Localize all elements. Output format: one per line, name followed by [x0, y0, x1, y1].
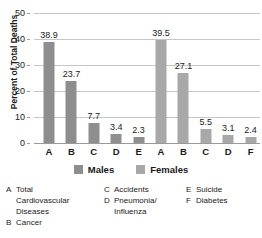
bar [133, 137, 144, 143]
key-entry-text-continuation: Influenza [114, 206, 157, 217]
key-entry-letter: E [186, 184, 192, 195]
x-axis-tick-label: B [180, 146, 187, 157]
y-axis-tick-mark [27, 65, 30, 66]
key-column-2: CAccidentsDPneumonia/Influenza [104, 184, 186, 228]
y-axis-tick-label: 20 [15, 86, 30, 96]
y-axis-tick-mark [27, 39, 30, 40]
bar [245, 137, 256, 143]
bar-value-label: 3.1 [222, 123, 235, 133]
bar-value-label: 5.5 [200, 117, 213, 127]
category-key: ATotalCardiovascularDiseasesBCancer CAcc… [6, 184, 260, 228]
x-axis-tick-label: C [90, 146, 97, 157]
legend-label-males: Males [88, 164, 114, 175]
bar-value-label: 3.4 [110, 122, 123, 132]
bar-series: 38.923.77.73.42.339.527.15.53.12.4 [34, 13, 260, 143]
key-entry-text-continuation: Cardiovascular [16, 195, 69, 206]
key-entry-letter: B [6, 217, 12, 228]
x-axis-line [34, 143, 260, 144]
key-entry: ATotalCardiovascularDiseases [6, 184, 104, 217]
key-entry-text: TotalCardiovascularDiseases [16, 184, 69, 217]
bar-slot: 2.3 [128, 13, 150, 143]
legend-item-females: Females [136, 164, 188, 175]
bar-value-label: 39.5 [152, 28, 170, 38]
legend-label-females: Females [150, 164, 188, 175]
x-axis-tick-label: A [46, 146, 53, 157]
bar-value-label: 2.4 [244, 125, 257, 135]
key-entry: CAccidents [104, 184, 186, 195]
key-entry-letter: A [6, 184, 12, 217]
x-axis-tick-label: F [248, 146, 254, 157]
y-axis-tick-label: 10 [15, 112, 30, 122]
bar [178, 73, 189, 143]
key-entry-text-continuation: Diseases [16, 206, 69, 217]
x-axis-tick-label: A [158, 146, 165, 157]
bar [66, 81, 77, 143]
y-axis-tick-label: 40 [15, 34, 30, 44]
key-entry-text: Cancer [16, 217, 42, 228]
bar [111, 134, 122, 143]
y-axis-tick-mark [27, 13, 30, 14]
x-axis-tick-label: E [135, 146, 141, 157]
key-entry: ESuicide [186, 184, 256, 195]
x-axis-tick-label: B [68, 146, 75, 157]
key-entry-text: Accidents [114, 184, 149, 195]
bar-slot: 5.5 [195, 13, 217, 143]
bar-slot: 39.5 [150, 13, 172, 143]
y-axis-tick-mark [27, 91, 30, 92]
legend-item-males: Males [74, 164, 114, 175]
key-entry-letter: D [104, 195, 110, 217]
x-axis-tick-label: D [113, 146, 120, 157]
plot-area: 01020304050 38.923.77.73.42.339.527.15.5… [34, 13, 260, 143]
bar-slot: 27.1 [172, 13, 194, 143]
bar-slot: 3.4 [105, 13, 127, 143]
bar [156, 40, 167, 143]
bar-value-label: 2.3 [132, 125, 145, 135]
y-axis-tick-mark [27, 117, 30, 118]
key-entry-text: Diabetes [196, 195, 228, 206]
key-column-1: ATotalCardiovascularDiseasesBCancer [6, 184, 104, 228]
bar-value-label: 27.1 [175, 61, 193, 71]
y-axis-tick-mark [27, 143, 30, 144]
key-column-3: ESuicideFDiabetes [186, 184, 256, 228]
bar-slot: 23.7 [60, 13, 82, 143]
y-axis-tick-label: 30 [15, 60, 30, 70]
x-axis-tick-label: D [225, 146, 232, 157]
clipped-title-strip [0, 0, 262, 9]
key-entry-text: Suicide [196, 184, 222, 195]
key-entry-letter: C [104, 184, 110, 195]
bar-slot: 3.1 [217, 13, 239, 143]
bar-slot: 2.4 [240, 13, 262, 143]
key-entry-letter: F [186, 195, 192, 206]
bar-chart: Percent of Total Deaths 01020304050 38.9… [0, 9, 262, 157]
bar-value-label: 38.9 [40, 30, 58, 40]
bar-slot: 38.9 [38, 13, 60, 143]
key-entry-text: Pneumonia/Influenza [114, 195, 157, 217]
key-entry: DPneumonia/Influenza [104, 195, 186, 217]
legend-swatch-females-icon [136, 165, 145, 174]
x-axis-tick-label: C [202, 146, 209, 157]
legend-swatch-males-icon [74, 165, 83, 174]
key-entry: FDiabetes [186, 195, 256, 206]
key-entry: BCancer [6, 217, 104, 228]
y-axis-tick-label: 50 [15, 8, 30, 18]
bar-value-label: 23.7 [63, 69, 81, 79]
bar [223, 135, 234, 143]
y-axis-tick-label: 0 [20, 138, 30, 148]
bar [44, 42, 55, 143]
bar-value-label: 7.7 [88, 111, 101, 121]
chart-legend: Males Females [0, 164, 262, 175]
bar [200, 129, 211, 143]
bar-slot: 7.7 [83, 13, 105, 143]
bar [88, 123, 99, 143]
